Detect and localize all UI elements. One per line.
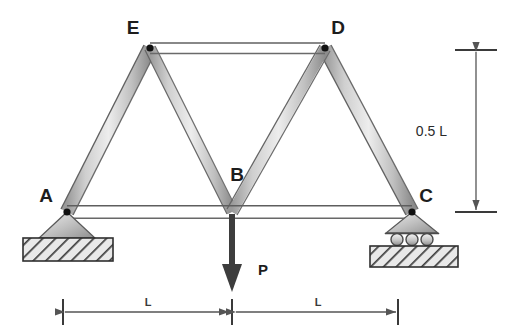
joint-dot-C — [408, 208, 415, 215]
dimension-spans — [63, 299, 398, 325]
joint-dot-A — [63, 208, 70, 215]
member-D-C — [319, 45, 418, 215]
point-load-P — [222, 214, 242, 292]
dimension-span-left-label: L — [145, 296, 152, 308]
node-label-E: E — [127, 17, 140, 38]
truss-diagram-canvas: A B C D E P 0.5 L L L — [0, 0, 515, 333]
joint-dot-D — [321, 44, 328, 51]
member-E-B — [145, 46, 237, 214]
dimension-span-right-label: L — [315, 296, 322, 308]
node-label-B: B — [230, 164, 244, 185]
node-label-C: C — [419, 185, 433, 206]
member-D-B — [227, 45, 330, 215]
load-label-P: P — [258, 261, 268, 278]
node-label-A: A — [39, 185, 53, 206]
dimension-height — [455, 50, 497, 212]
member-A-E — [61, 45, 156, 215]
member-E-D — [150, 43, 325, 54]
truss-members — [61, 43, 418, 218]
support-roller-C — [370, 212, 458, 267]
support-pin-A — [23, 212, 113, 261]
dimension-height-label: 0.5 L — [416, 123, 447, 139]
node-label-D: D — [331, 17, 345, 38]
truss-figure: A B C D E P 0.5 L L L — [0, 0, 515, 333]
joint-dot-E — [146, 44, 153, 51]
member-A-C — [67, 206, 412, 219]
